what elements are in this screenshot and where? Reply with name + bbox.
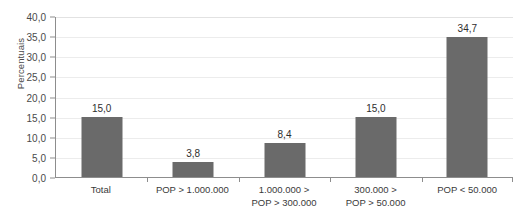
y-axis-tick-label: 35,0: [27, 32, 46, 43]
bar-slot: 3,8: [147, 17, 238, 177]
bar-series: 15,03,88,415,034,7: [56, 17, 513, 177]
bar[interactable]: [264, 143, 305, 177]
bar-slot: 34,7: [422, 17, 513, 177]
bar-value-label: 8,4: [278, 129, 292, 140]
y-axis-tick-label: 5,0: [32, 152, 46, 163]
x-axis-tick-mark: [147, 177, 148, 182]
bar[interactable]: [447, 37, 488, 177]
y-axis-tick-labels: 40,035,030,025,020,015,010,05,00,0: [0, 17, 55, 178]
x-axis-category-label: Total: [55, 184, 147, 209]
x-axis-category-label: 1.000.000 > POP > 300.000: [238, 184, 330, 209]
x-axis-tick-mark: [512, 177, 513, 182]
x-axis-category-labels: TotalPOP > 1.000.0001.000.000 > POP > 30…: [55, 184, 513, 209]
y-axis-tick-label: 30,0: [27, 52, 46, 63]
bar-value-label: 15,0: [92, 103, 111, 114]
bar-slot: 15,0: [56, 17, 147, 177]
cropped-title-sliver: ‌: [26, 0, 326, 5]
y-axis-tick-label: 20,0: [27, 92, 46, 103]
y-axis-tick-label: 25,0: [27, 72, 46, 83]
x-axis-tick-mark: [239, 177, 240, 182]
x-axis-category-label: 300.000 > POP > 50.000: [330, 184, 422, 209]
x-axis-tick-mark: [422, 177, 423, 182]
bar-slot: 15,0: [330, 17, 421, 177]
x-axis-category-label: POP > 1.000.000: [147, 184, 239, 209]
x-axis-tick-mark: [330, 177, 331, 182]
x-axis-category-label: POP < 50.000: [421, 184, 513, 209]
bar-chart: ‌ Percentuais 40,035,030,025,020,015,010…: [0, 0, 530, 220]
y-axis-tick-label: 10,0: [27, 132, 46, 143]
bar-slot: 8,4: [239, 17, 330, 177]
bar[interactable]: [173, 162, 214, 177]
y-axis-tick-label: 0,0: [32, 173, 46, 184]
bar[interactable]: [355, 117, 396, 177]
plot-area: 15,03,88,415,034,7: [55, 17, 513, 178]
y-axis-tick-label: 40,0: [27, 12, 46, 23]
bar-value-label: 3,8: [186, 148, 200, 159]
bar-value-label: 34,7: [458, 23, 477, 34]
y-axis-tick-label: 15,0: [27, 112, 46, 123]
bar[interactable]: [81, 117, 122, 177]
bar-value-label: 15,0: [366, 103, 385, 114]
